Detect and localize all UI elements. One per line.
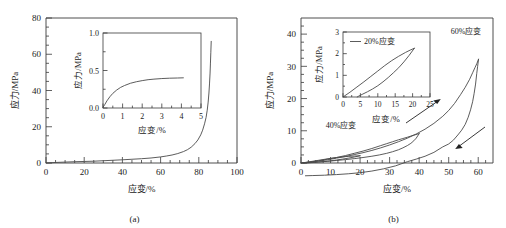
panel-a-caption: (a) <box>8 214 261 224</box>
x-tick-label: 60 <box>474 167 484 177</box>
x-tick-label: 0 <box>44 167 49 177</box>
panel-b-y-ticks <box>301 26 307 163</box>
inset-x-tick-label: 25 <box>426 100 434 109</box>
inset-y-tick-label: 0.5 <box>89 67 99 76</box>
panel-a-plot: 0 20 40 60 80 100 <box>0 0 253 228</box>
inset-y-tick-label: 3 <box>335 28 339 37</box>
x-tick-label: 50 <box>444 167 454 177</box>
inset-x-tick-label: 4 <box>179 112 183 121</box>
panel-a-ylabel: 应力/MPa <box>9 72 20 110</box>
panel-b-inset: 0 5 10 15 20 25 0 <box>314 28 434 124</box>
panel-b-ylabel: 应力/MPa <box>264 72 275 110</box>
figure-container: 0 20 40 60 80 100 <box>0 0 506 228</box>
panel-b-curve-40-unloading <box>304 134 419 163</box>
inset-y-tick-label: 1 <box>335 71 339 80</box>
legend-label-20-strain: 20%应变 <box>364 36 395 46</box>
inset-x-tick-label: 5 <box>199 112 203 121</box>
inset-a-y-tick-labels: 0.0 0.5 1.0 <box>89 29 99 113</box>
panel-b-caption: (b) <box>267 214 506 224</box>
inset-x-tick-label: 2 <box>140 112 144 121</box>
inset-a-x-tick-labels: 0 1 2 3 4 5 <box>101 112 203 121</box>
arrow-unloading <box>455 127 485 149</box>
inset-frame <box>103 33 201 108</box>
y-tick-label: 20 <box>32 122 42 132</box>
y-tick-label: 60 <box>32 49 42 59</box>
x-tick-label: 40 <box>118 167 128 177</box>
inset-b-y-tick-labels: 0 1 2 3 <box>335 28 339 102</box>
label-60-strain: 60%应变 <box>451 26 482 36</box>
panel-b-y-tick-labels: 0 10 20 30 40 <box>287 29 297 168</box>
inset-x-tick-label: 15 <box>391 100 399 109</box>
inset-x-tick-label: 20 <box>409 100 417 109</box>
inset-b-x-tick-labels: 0 5 10 15 20 25 <box>341 100 434 109</box>
panel-b-xlabel: 应变/% <box>383 183 412 194</box>
inset-y-tick-label: 0.0 <box>89 104 99 113</box>
inset-x-tick-label: 1 <box>121 112 125 121</box>
inset-b-xlabel: 应变/% <box>372 114 399 124</box>
panel-a-inset: 0 1 2 3 4 5 0.0 0.5 <box>73 29 203 135</box>
inset-x-tick-label: 0 <box>341 100 345 109</box>
y-tick-label: 40 <box>32 86 42 96</box>
inset-a-ylabel: 应力/MPa <box>73 52 83 89</box>
inset-x-tick-label: 10 <box>374 100 382 109</box>
panel-b-plot: 0 10 20 30 40 50 60 <box>253 0 506 228</box>
x-tick-label: 10 <box>326 167 336 177</box>
x-tick-label: 60 <box>156 167 166 177</box>
panel-a-x-tick-labels: 0 20 40 60 80 100 <box>44 167 245 177</box>
x-tick-label: 20 <box>80 167 90 177</box>
inset-b-ylabel: 应力/MPa <box>314 46 324 83</box>
x-tick-label: 0 <box>299 167 304 177</box>
y-tick-label: 0 <box>292 158 297 168</box>
label-40-strain: 40%应变 <box>326 120 357 130</box>
panel-a: 0 20 40 60 80 100 <box>0 0 253 228</box>
panel-a-y-tick-labels: 0 20 40 60 80 <box>32 13 42 168</box>
inset-x-tick-label: 5 <box>359 100 363 109</box>
y-tick-label: 30 <box>287 62 297 72</box>
y-tick-label: 80 <box>32 13 42 23</box>
inset-x-tick-label: 0 <box>101 112 105 121</box>
x-tick-label: 80 <box>194 167 204 177</box>
inset-y-tick-label: 1.0 <box>89 29 99 38</box>
x-tick-label: 100 <box>230 167 244 177</box>
y-tick-label: 10 <box>287 126 297 136</box>
y-tick-label: 40 <box>287 29 297 39</box>
inset-x-tick-label: 3 <box>160 112 164 121</box>
inset-y-tick-label: 2 <box>335 49 339 58</box>
inset-a-xlabel: 应变/% <box>138 125 165 135</box>
panel-b: 0 10 20 30 40 50 60 <box>253 0 506 228</box>
y-tick-label: 0 <box>37 158 42 168</box>
panel-a-xlabel: 应变/% <box>128 183 157 194</box>
y-tick-label: 20 <box>287 94 297 104</box>
inset-y-tick-label: 0 <box>335 93 339 102</box>
panel-a-y-ticks <box>46 18 52 163</box>
x-tick-label: 40 <box>415 167 425 177</box>
